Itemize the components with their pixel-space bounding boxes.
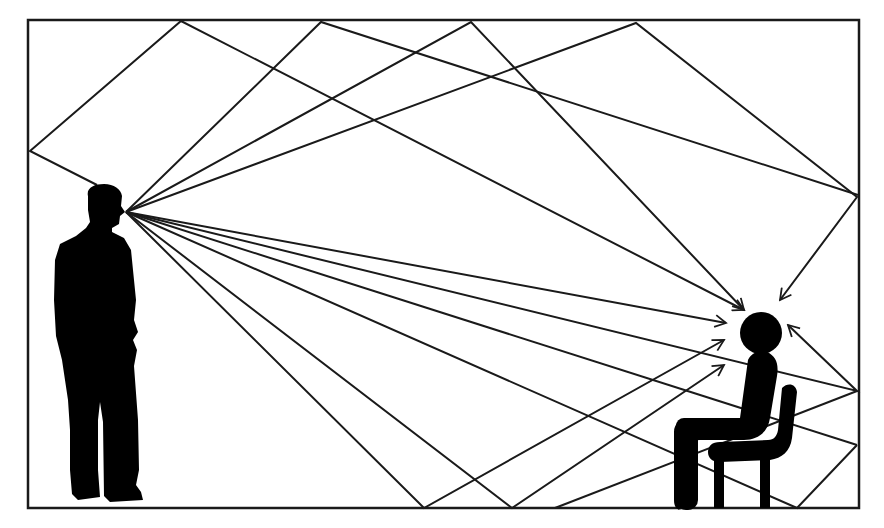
diagram-canvas: [0, 0, 884, 528]
ray-top-reflection-2: [126, 22, 744, 310]
ray-top-reflection-3: [126, 23, 857, 300]
ray-right-wall-reflection-1: [126, 212, 857, 391]
ray-floor-reflection-1: [126, 212, 724, 508]
listener-head: [740, 312, 782, 354]
ray-left-wall-top-reflection: [30, 21, 744, 310]
ray-top-reflection-1: [126, 22, 858, 212]
sound-reflection-diagram: Sound reflections in a room from speaker…: [0, 0, 884, 528]
standing-person-icon: [54, 184, 143, 502]
ray-floor-reflection-3: [126, 212, 857, 508]
ray-floor-reflection-2: [126, 212, 724, 508]
ray-direct-sound: [126, 212, 726, 323]
